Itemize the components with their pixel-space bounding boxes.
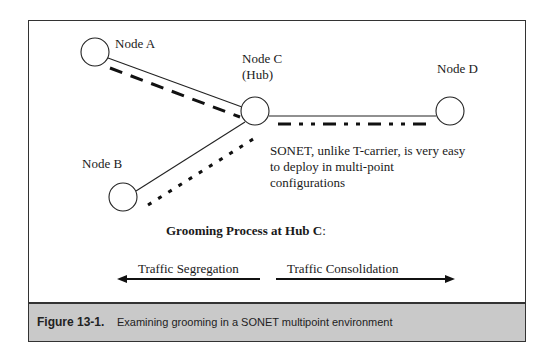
grooming-process-title: Grooming Process at Hub C: (166, 223, 326, 239)
node-b-circle (109, 183, 137, 211)
node-c-label: Node C (242, 51, 282, 67)
traffic-path-b-c-dotted (148, 136, 258, 205)
traffic-consolidation-label: Traffic Consolidation (287, 261, 399, 277)
sonet-note: SONET, unlike T-carrier, is very easy to… (270, 143, 470, 191)
figure-number: Figure 13-1. (37, 315, 104, 329)
link-b-c (136, 122, 245, 191)
node-a-label: Node A (115, 36, 155, 52)
node-d-label: Node D (437, 61, 478, 77)
node-a-circle (81, 38, 109, 66)
node-c-hub-circle (241, 97, 269, 125)
arrow-right-head-icon (445, 275, 455, 283)
grooming-process-title-colon: : (322, 223, 326, 238)
figure-caption-bar: Figure 13-1. Examining grooming in a SON… (28, 302, 526, 342)
arrow-left-head-icon (117, 275, 127, 283)
node-c-hub-sublabel: (Hub) (242, 67, 273, 83)
link-a-c (108, 58, 242, 107)
traffic-path-a-c-dashed (110, 68, 240, 117)
grooming-process-title-text: Grooming Process at Hub C (166, 223, 322, 238)
traffic-segregation-label: Traffic Segregation (138, 261, 239, 277)
figure-caption-text: Examining grooming in a SONET multipoint… (117, 316, 393, 328)
node-d-circle (436, 97, 464, 125)
node-b-label: Node B (82, 156, 122, 172)
